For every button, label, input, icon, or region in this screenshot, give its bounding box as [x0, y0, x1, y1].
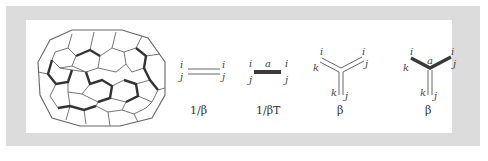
figure-panel [26, 20, 452, 133]
figure-canvas: i j i j 1/β i j a i j 1/βT i k i j k j β [0, 0, 488, 161]
caption: β [425, 104, 431, 117]
caption: 1/β [190, 104, 207, 117]
index-i: i [362, 46, 365, 57]
caption: β [337, 104, 343, 117]
index-i: i [222, 59, 225, 70]
index-k: k [313, 62, 319, 73]
index-i: i [249, 58, 252, 69]
index-i: i [285, 58, 288, 69]
index-i: i [410, 46, 413, 57]
index-i: i [180, 59, 183, 70]
index-k: k [403, 62, 409, 73]
index-a: a [265, 58, 271, 69]
index-i: i [451, 46, 454, 57]
index-i: i [320, 46, 323, 57]
index-a: a [427, 55, 433, 66]
index-k: k [420, 87, 426, 98]
caption: 1/βT [256, 104, 281, 117]
index-k: k [331, 87, 337, 98]
